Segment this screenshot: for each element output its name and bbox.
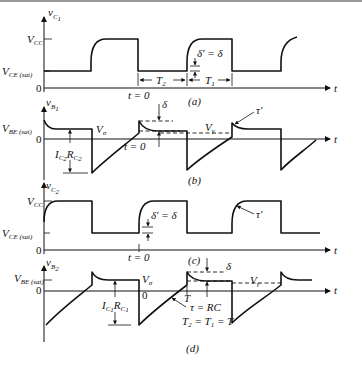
zero-label-d: 0 bbox=[36, 284, 42, 296]
tau-prime-label-b: τ' bbox=[256, 104, 263, 116]
panel-b: vB1 VBE (sat) 0 Vσ IC2RC2 t = 0 δ Vγ τ' … bbox=[2, 96, 338, 187]
zero-label-c: 0 bbox=[36, 244, 42, 256]
tau-prime-label-c: τ' bbox=[256, 208, 263, 220]
waveform-diagram: vC1 VCC VCE (sat) 0 t = 0 T2 T1 δ' = δ t… bbox=[0, 0, 362, 369]
delta-label-a: δ' = δ bbox=[197, 47, 223, 59]
zero-label-a: 0 bbox=[36, 82, 42, 94]
waveform-vc1 bbox=[44, 37, 297, 71]
vce-sat-label-c: VCE (sat) bbox=[2, 227, 33, 241]
panel-c: vC2 VCC VCE (sat) 0 t = 0 δ' = δ τ' t (c… bbox=[2, 179, 338, 267]
tau-label-d: τ = RC bbox=[190, 301, 222, 313]
panel-a: vC1 VCC VCE (sat) 0 t = 0 T2 T1 δ' = δ t… bbox=[2, 6, 338, 108]
y-axis-label-b: vB1 bbox=[46, 96, 59, 113]
t2-label-a: T2 bbox=[156, 74, 166, 88]
t-axis-label-c: t bbox=[334, 244, 338, 256]
delta-label-d: δ bbox=[226, 260, 232, 272]
ic1rc1-label-d: IC1RC1 bbox=[101, 299, 129, 314]
y-axis-label-a: vC1 bbox=[48, 6, 61, 23]
t0-label-a: t = 0 bbox=[128, 89, 150, 101]
vcc-label-c: VCC bbox=[27, 195, 43, 209]
zero-label-b: 0 bbox=[36, 133, 42, 145]
t-axis-label-d: t bbox=[334, 284, 338, 296]
zero-mark-d: 0 bbox=[142, 289, 148, 301]
delta-label-c: δ' = δ bbox=[151, 209, 177, 221]
vbe-sat-label-b: VBE (sat) bbox=[2, 122, 33, 136]
y-axis-label-d: vB2 bbox=[46, 256, 59, 273]
caption-a: (a) bbox=[188, 95, 201, 108]
caption-c: (c) bbox=[188, 254, 201, 267]
period-equation-d: T2 = T1 = T bbox=[182, 315, 234, 329]
waveform-vb2 bbox=[46, 272, 312, 325]
t1-label-a: T1 bbox=[205, 74, 215, 88]
t0-label-c: t = 0 bbox=[128, 251, 150, 263]
t-axis-label-b: t bbox=[334, 133, 338, 145]
delta-label-b: δ bbox=[162, 98, 168, 110]
v0-label-d: Vσ bbox=[142, 273, 153, 287]
ic2rc2-label-b: IC2RC2 bbox=[54, 148, 82, 163]
y-axis-label-c: vC2 bbox=[46, 179, 60, 196]
panel-d: vB2 VBE (sat) 0 Vσ 0 IC1RC1 T τ = RC T2 … bbox=[14, 256, 338, 355]
vgamma-label-b: Vγ bbox=[205, 121, 215, 135]
vgamma-label-d: Vγ bbox=[250, 274, 260, 288]
waveform-vb1 bbox=[44, 120, 316, 173]
vcc-label-a: VCC bbox=[27, 33, 43, 47]
t0-label-b: t = 0 bbox=[124, 140, 146, 152]
v0-label-b: Vσ bbox=[96, 123, 107, 137]
vce-sat-label-a: VCE (sat) bbox=[2, 65, 33, 79]
t-axis-label-a: t bbox=[334, 82, 338, 94]
waveform-vc2 bbox=[44, 201, 320, 233]
caption-b: (b) bbox=[188, 174, 201, 187]
caption-d: (d) bbox=[186, 342, 199, 355]
